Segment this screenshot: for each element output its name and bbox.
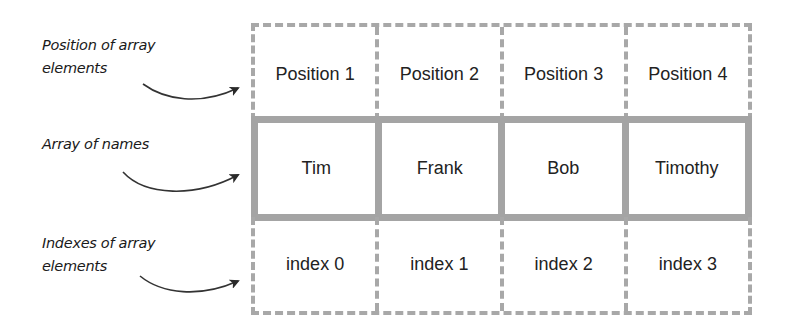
annotation-names: Array of names [42,133,149,156]
positions-row: Position 1 Position 2 Position 3 Positio… [251,23,752,121]
position-cell: Position 2 [375,27,499,121]
curved-arrow-icon [123,172,238,191]
curved-arrow-icon [143,84,238,99]
annotation-names-line1: Array of names [42,133,149,156]
annotation-indexes-line1: Indexes of array [42,232,155,255]
annotation-positions-line1: Position of array [42,34,155,57]
index-cell: index 0 [255,217,375,311]
annotation-indexes-line2: elements [42,255,155,278]
index-cell: index 3 [624,217,748,311]
annotation-indexes: Indexes of array elements [42,232,155,278]
annotation-positions-line2: elements [42,57,155,80]
array-element-cell: Tim [258,123,375,214]
index-cell: index 2 [500,217,624,311]
array-element-cell: Bob [498,123,622,214]
position-cell: Position 1 [255,27,375,121]
array-element-cell: Timothy [622,123,746,214]
indexes-row: index 0 index 1 index 2 index 3 [251,217,752,315]
position-cell: Position 3 [500,27,624,121]
names-array-row: Tim Frank Bob Timothy [251,116,752,221]
curved-arrow-icon [140,276,238,292]
annotation-positions: Position of array elements [42,34,155,80]
position-cell: Position 4 [624,27,748,121]
array-element-cell: Frank [375,123,499,214]
index-cell: index 1 [375,217,499,311]
